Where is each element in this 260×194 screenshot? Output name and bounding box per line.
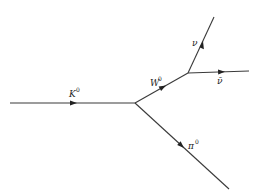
arrow-icon xyxy=(70,101,77,106)
neutrino-label: ν xyxy=(192,38,198,48)
pion-line: π 0 xyxy=(135,103,229,189)
neutrino-line: ν xyxy=(188,17,214,73)
kaon-superscript: 0 xyxy=(76,86,80,93)
kaon-line: K 0 xyxy=(10,86,135,106)
w-boson-line: W 0 xyxy=(135,73,188,103)
feynman-diagram: K 0 W 0 ν ν̄ π 0 xyxy=(0,0,260,194)
pion-superscript: 0 xyxy=(195,138,199,145)
arrow-icon xyxy=(159,86,166,91)
pion-label: π xyxy=(187,141,195,151)
antineutrino-line: ν̄ xyxy=(188,70,249,87)
w-boson-superscript: 0 xyxy=(158,75,162,82)
arrow-icon xyxy=(218,70,225,75)
antineutrino-label: ν̄ xyxy=(217,76,223,86)
